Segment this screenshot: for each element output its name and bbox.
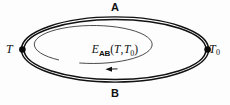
conductor-a-label: A <box>0 2 230 13</box>
emf-symbol: E <box>92 43 99 55</box>
emf-subscript-ab: AB <box>99 49 110 58</box>
emf-expression-label: EAB(T,T0) <box>0 44 230 58</box>
emf-close-paren: ) <box>134 43 138 55</box>
emf-direction-arrow <box>105 67 117 72</box>
emf-arrow-head <box>105 67 112 72</box>
thermocouple-loop-figure: A B T T0 EAB(T,T0) <box>0 0 230 105</box>
conductor-b-label: B <box>0 88 230 99</box>
